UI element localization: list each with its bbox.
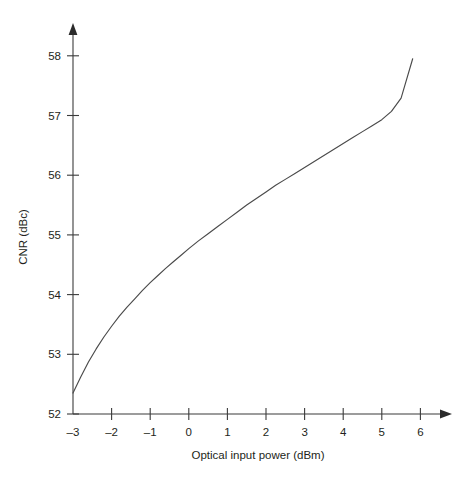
y-axis-ticks: 52535455565758 <box>48 50 79 420</box>
x-axis-arrow-icon <box>440 410 452 419</box>
x-tick-label: –1 <box>144 426 157 438</box>
y-tick-label: 57 <box>48 110 61 122</box>
x-axis-title: Optical input power (dBm) <box>192 449 325 461</box>
x-tick-label: 6 <box>417 426 423 438</box>
y-tick-label: 52 <box>48 408 61 420</box>
y-axis-title: CNR (dBc) <box>17 209 29 265</box>
x-tick-label: –3 <box>67 426 80 438</box>
chart-svg: 52535455565758 –3–2–10123456 CNR (dBc) O… <box>0 0 469 482</box>
x-tick-label: 2 <box>263 426 269 438</box>
x-tick-label: 3 <box>301 426 307 438</box>
y-tick-label: 53 <box>48 348 61 360</box>
x-tick-label: 4 <box>340 426 347 438</box>
x-axis-ticks: –3–2–10123456 <box>67 408 424 438</box>
chart-figure: 52535455565758 –3–2–10123456 CNR (dBc) O… <box>0 0 469 482</box>
y-tick-label: 54 <box>48 289 61 301</box>
y-tick-label: 55 <box>48 229 61 241</box>
y-axis-arrow-icon <box>69 23 78 35</box>
y-tick-label: 56 <box>48 169 61 181</box>
x-tick-label: –2 <box>105 426 118 438</box>
data-series-line <box>73 59 413 393</box>
y-tick-label: 58 <box>48 50 61 62</box>
x-tick-label: 1 <box>224 426 230 438</box>
x-tick-label: 5 <box>379 426 385 438</box>
x-tick-label: 0 <box>186 426 192 438</box>
